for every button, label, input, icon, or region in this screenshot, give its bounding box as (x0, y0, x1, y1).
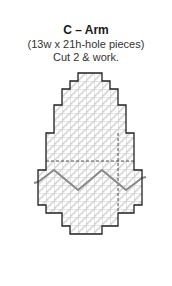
stitch-grid (30, 65, 150, 245)
arm-pattern-chart (0, 0, 172, 286)
